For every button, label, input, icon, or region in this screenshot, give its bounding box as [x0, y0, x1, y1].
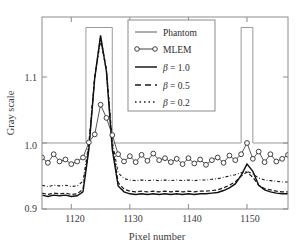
xtick-label-2: 1130: [123, 213, 143, 224]
y-axis-title: Gray scale: [5, 90, 16, 135]
xtick-label-3: 1140: [182, 213, 202, 224]
legend-label-mlem: MLEM: [163, 45, 192, 55]
legend-label-beta10: β = 1.0: [162, 63, 190, 73]
xtick-label-4: 1150: [240, 213, 260, 224]
chart-legend: Phantom MLEM β = 1.0 β = 0.5 β = 0.2: [128, 20, 215, 111]
legend-label-beta05: β = 0.5: [162, 81, 190, 91]
chart-svg: 1.1 1.0 0.9 1120 1130 1140 1150 Pixel nu…: [0, 0, 307, 248]
x-axis-title: Pixel number: [129, 231, 186, 242]
legend-label-phantom: Phantom: [163, 28, 197, 38]
chart-figure: 1.1 1.0 0.9 1120 1130 1140 1150 Pixel nu…: [0, 0, 307, 248]
ytick-label-1: 1.1: [25, 72, 38, 83]
ytick-label-3: 0.9: [25, 203, 38, 214]
xtick-label-1: 1120: [65, 213, 85, 224]
legend-label-beta02: β = 0.2: [162, 98, 190, 108]
ytick-label-2: 1.0: [25, 140, 38, 151]
